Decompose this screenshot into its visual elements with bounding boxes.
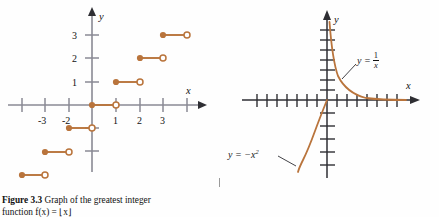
closed-dot--1 <box>66 125 72 131</box>
x-tick-label-3: 3 <box>160 115 165 126</box>
annotation-y-equals-one-over-x: y = 1 x <box>357 51 379 70</box>
x-axis-arrowhead <box>198 101 207 109</box>
closed-dot-0 <box>89 102 95 108</box>
x-axis-label-right: x <box>405 80 411 91</box>
figure-3-4-panel: x y y = 1 x y = −x2 <box>220 0 439 217</box>
open-dot--2 <box>66 149 72 155</box>
y-axis-arrowhead <box>88 7 96 16</box>
annotation-neg-x-sq-exponent: 2 <box>255 148 258 155</box>
y-tick-label-1: 1 <box>72 77 77 88</box>
fraction-denominator: x <box>373 61 379 70</box>
figure-3-3-caption-line2: function f(x) = ⌊x⌋ <box>2 207 216 218</box>
closed-dot-2 <box>137 55 143 61</box>
greatest-integer-step-graph: x y -3 -2 1 2 3 1 2 3 <box>0 0 220 182</box>
y-tick-label-2: 2 <box>72 53 77 64</box>
open-dot-4 <box>184 32 190 38</box>
open-dot-3-low <box>160 55 166 61</box>
figure-3-3-caption: Figure 3.3 Graph of the greatest integer… <box>2 195 216 217</box>
closed-dot--3 <box>42 149 48 155</box>
figure-3-3-panel: x y -3 -2 1 2 3 1 2 3 <box>0 0 220 217</box>
figure-3-3-caption-text: Graph of the greatest integer <box>44 195 150 205</box>
curve-neg-x-squared <box>298 100 327 172</box>
open-dot-1-axis <box>113 102 119 108</box>
leader-line-reciprocal <box>342 64 356 79</box>
x-axis-label: x <box>185 85 191 96</box>
figure-3-3-plot: x y -3 -2 1 2 3 1 2 3 <box>0 0 220 182</box>
figure-page: x y -3 -2 1 2 3 1 2 3 <box>0 0 439 217</box>
y-axis-label: y <box>98 11 104 22</box>
leader-line-neg-x-squared <box>278 156 296 166</box>
annotation-y-equals-neg-x-squared: y = −x2 <box>228 148 259 160</box>
open-dot--3 <box>42 172 48 178</box>
annotation-neg-x-sq-text: y = −x <box>228 149 255 160</box>
annotation-lhs: y = <box>357 55 371 66</box>
figure-3-4-plot: x y y = 1 x y = −x2 <box>220 0 439 182</box>
x-tick-label--2: -2 <box>62 115 70 126</box>
y-axis-arrowhead-right <box>323 10 331 20</box>
figure-3-3-label: Figure 3.3 <box>2 195 42 205</box>
x-tick-label--3: -3 <box>38 115 46 126</box>
y-axis-group-right <box>320 10 335 178</box>
closed-dot-3 <box>160 32 166 38</box>
fraction-one-over-x: 1 x <box>373 51 379 70</box>
open-dot-0-low <box>89 125 95 131</box>
closed-dot-1 <box>113 79 119 85</box>
open-dot-2-low <box>137 79 143 85</box>
y-tick-label-3: 3 <box>72 30 77 41</box>
x-tick-label-2: 2 <box>137 115 142 126</box>
y-axis-group <box>85 7 99 172</box>
x-axis-arrowhead-right <box>410 96 420 104</box>
x-tick-label-1: 1 <box>113 115 118 126</box>
y-axis-label-right: y <box>333 14 339 25</box>
closed-dot--4 <box>19 172 25 178</box>
